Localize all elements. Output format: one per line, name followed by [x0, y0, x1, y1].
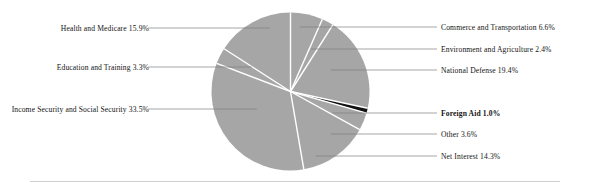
slice-label-income-security-and-social-security: Income Security and Social Security 33.5…	[12, 105, 149, 115]
slice-label-other: Other 3.6%	[441, 130, 477, 140]
footer-rule	[30, 181, 560, 182]
slice-label-foreign-aid: Foreign Aid 1.0%	[441, 109, 500, 119]
slice-label-environment-and-agriculture: Environment and Agriculture 2.4%	[441, 45, 552, 55]
slice-label-commerce-and-transportation: Commerce and Transportation 6.6%	[441, 23, 555, 33]
slice-label-education-and-training: Education and Training 3.3%	[57, 63, 149, 73]
slice-label-national-defense: National Defense 19.4%	[441, 66, 518, 76]
slice-label-net-interest: Net Interest 14.3%	[441, 152, 500, 162]
pie-chart-figure: Health and Medicare 15.9% Education and …	[0, 0, 590, 191]
slice-label-health-and-medicare: Health and Medicare 15.9%	[61, 24, 149, 34]
